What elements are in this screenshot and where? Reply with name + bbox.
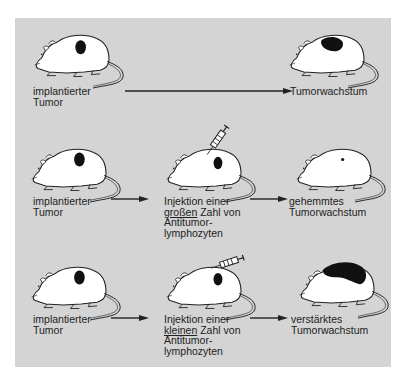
mouse-enhanced-growth: [293, 256, 393, 318]
mouse-implanted-tumor-row2: [25, 140, 125, 202]
syringe-icon: [205, 118, 235, 158]
tumor-icon: [341, 158, 344, 161]
arrow-right-icon: [250, 194, 288, 204]
label-injection-small: Injektion einer kleinen Zahl von Antitum…: [164, 314, 240, 356]
label-enhanced-growth: verstärktes Tumorwachstum: [291, 314, 368, 335]
mouse-implanted-tumor-row3: [25, 258, 125, 320]
mouse-tumor-growth-row1: [283, 26, 383, 88]
diagram-panel: implantierter Tumor Tumorwachstum implan…: [15, 18, 391, 367]
mouse-inhibited-growth: [290, 140, 390, 202]
arrow-right-icon: [111, 194, 149, 204]
label-injection-large: Injektion einer großen Zahl von Antitumo…: [164, 196, 240, 238]
label-implanted-tumor-row1: implantierter Tumor: [33, 86, 91, 107]
label-inhibited-growth: gehemmtes Tumorwachstum: [289, 196, 366, 217]
tumor-icon: [74, 270, 85, 284]
label-implanted-tumor-row2: implantierter Tumor: [33, 196, 91, 217]
syringe-icon: [210, 252, 250, 272]
arrow-right-icon: [111, 313, 149, 323]
tumor-icon: [75, 40, 86, 54]
label-implanted-tumor-row3: implantierter Tumor: [33, 314, 91, 335]
label-tumor-growth-row1: Tumorwachstum: [290, 86, 367, 97]
arrow-right-icon: [250, 313, 288, 323]
tumor-icon: [214, 273, 223, 285]
arrow-right-icon: [125, 86, 293, 96]
mouse-implanted-tumor-row1: [28, 26, 128, 88]
tumor-icon: [74, 152, 85, 166]
tumor-icon: [214, 157, 223, 169]
